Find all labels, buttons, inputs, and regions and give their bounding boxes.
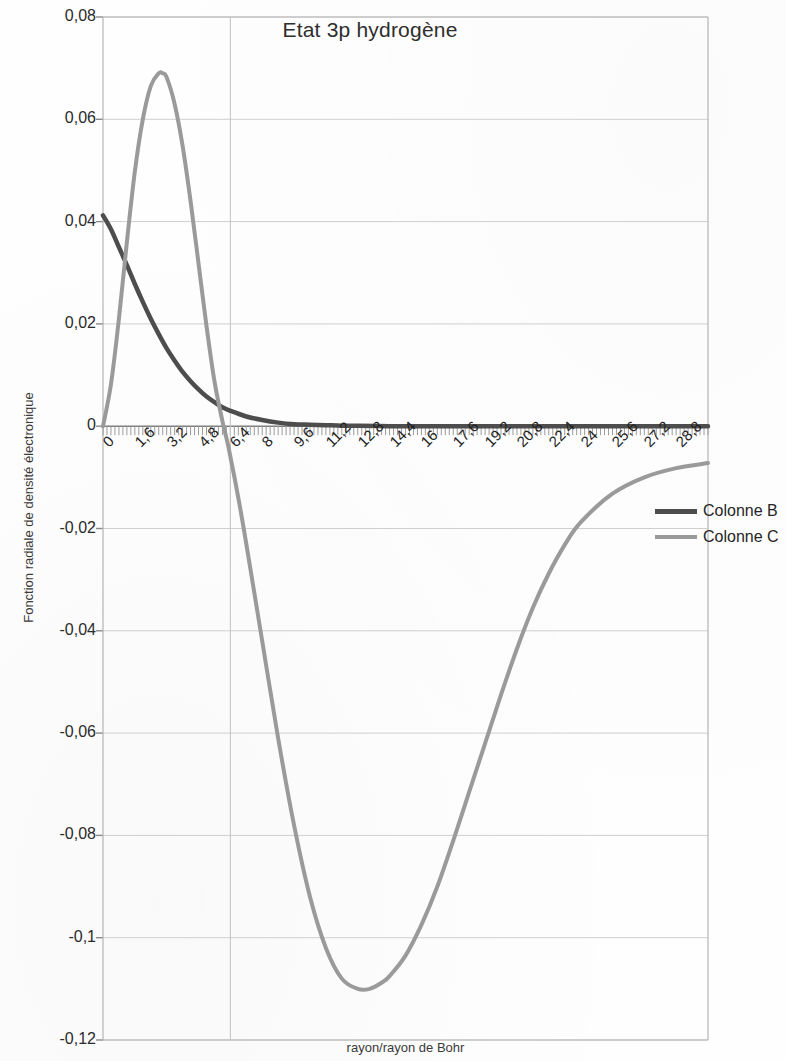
x-axis-tick-label: 24 <box>577 426 601 450</box>
legend-item-colonne-c: Colonne C <box>655 524 786 550</box>
x-axis-tick-label: 6,4 <box>226 423 253 450</box>
x-axis-tick-label: 16 <box>417 426 441 450</box>
legend-label-colonne-c: Colonne C <box>703 528 779 546</box>
x-axis-tick-label: 17,6 <box>449 418 482 451</box>
legend-swatch-icon-colonne-c <box>655 535 697 539</box>
chart-container: Etat 3p hydrogène Fonction radiale de de… <box>0 0 786 1061</box>
x-axis-tick-label: 9,6 <box>290 423 317 450</box>
x-axis-tick-label: 3,2 <box>163 423 190 450</box>
x-axis-tick-label: 12,8 <box>354 418 387 451</box>
x-axis-tick-label: 14,4 <box>386 418 419 451</box>
chart-legend: Colonne B Colonne C <box>655 498 786 550</box>
x-axis-tick-label: 20,8 <box>513 418 546 451</box>
x-axis-tick-label: 11,2 <box>322 418 354 450</box>
x-axis-tick-label: 27,2 <box>640 418 673 451</box>
x-axis-tick-label: 8 <box>258 432 276 450</box>
legend-swatch-icon-colonne-b <box>655 509 697 514</box>
x-axis-tick-label: 0 <box>99 432 117 450</box>
x-axis-tick-label: 19,2 <box>481 418 514 451</box>
x-axis-tick-label: 1,6 <box>131 423 158 450</box>
legend-label-colonne-b: Colonne B <box>703 502 778 520</box>
x-axis-tick-label: 4,8 <box>195 423 222 450</box>
x-axis-tick-label: 28,8 <box>672 418 705 451</box>
x-axis-tick-label: 22,4 <box>545 418 578 451</box>
legend-item-colonne-b: Colonne B <box>655 498 786 524</box>
x-axis-tick-label: 25,6 <box>608 418 641 451</box>
